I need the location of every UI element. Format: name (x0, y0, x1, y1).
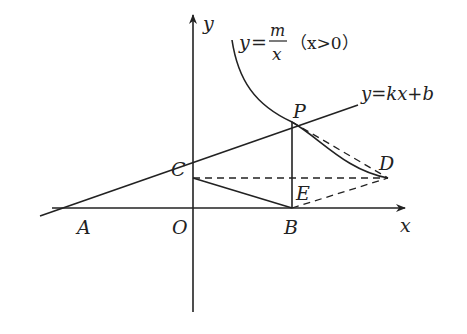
hyperbola-curve (232, 40, 388, 178)
coordinate-diagram: y x O A B C D E P y = m x （x>0） y=kx+b (0, 0, 467, 334)
point-A-label: A (75, 216, 91, 238)
origin-label: O (172, 216, 188, 238)
svg-text:x: x (272, 44, 282, 64)
x-axis-label: x (400, 214, 411, 236)
point-P-label: P (292, 100, 307, 122)
point-E-label: E (295, 182, 310, 204)
line-kx-b (40, 105, 358, 216)
svg-text:y: y (238, 31, 250, 53)
curve-equation-label: y = m x （x>0） (238, 21, 359, 64)
svg-text:m: m (270, 21, 285, 40)
segment-CB (193, 178, 292, 208)
svg-text:=: = (251, 31, 267, 53)
line-equation-label: y=kx+b (360, 83, 434, 104)
svg-text:（x>0）: （x>0） (290, 33, 359, 53)
point-C-label: C (171, 158, 186, 180)
point-D-label: D (378, 152, 394, 174)
y-axis-label: y (202, 12, 214, 34)
point-B-label: B (283, 216, 298, 238)
segment-PD-dashed (292, 122, 388, 178)
